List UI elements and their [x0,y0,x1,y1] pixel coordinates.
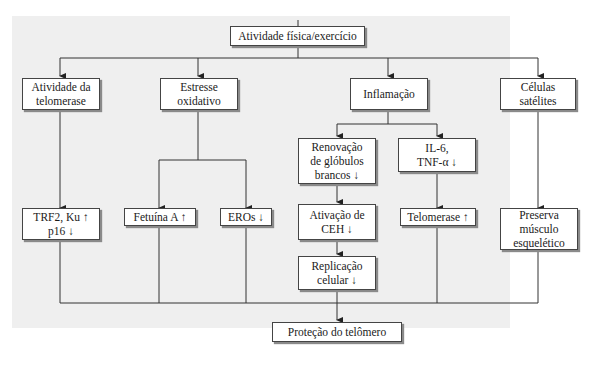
telomere-protection-box: Proteção do telômero [272,322,402,342]
il6-tnf-box: IL-6, TNF-α ↓ [398,138,476,172]
telomerase-up-box: Telomerase ↑ [400,208,476,226]
ceh-activation-box: Ativação de CEH ↓ [298,204,376,240]
ros-box: EROs ↓ [220,208,272,226]
inflammation-box: Inflamação [350,78,428,110]
satellite-cells-box: Células satélites [500,78,576,110]
skeletal-muscle-box: Preserva músculo esquelético [500,208,578,250]
oxidative-stress-box: Estresse oxidativo [160,78,238,110]
white-blood-cell-renewal-box: Renovação de glóbulos brancos ↓ [298,138,376,184]
cell-replication-box: Replicação celular ↓ [298,256,376,290]
telomerase-activity-box: Atividade da telomerase [22,78,100,110]
fetuin-a-box: Fetuína A ↑ [124,208,196,226]
trf2-ku-p16-box: TRF2, Ku ↑ p16 ↓ [22,208,100,240]
root-box: Atividade física/exercício [230,26,365,46]
